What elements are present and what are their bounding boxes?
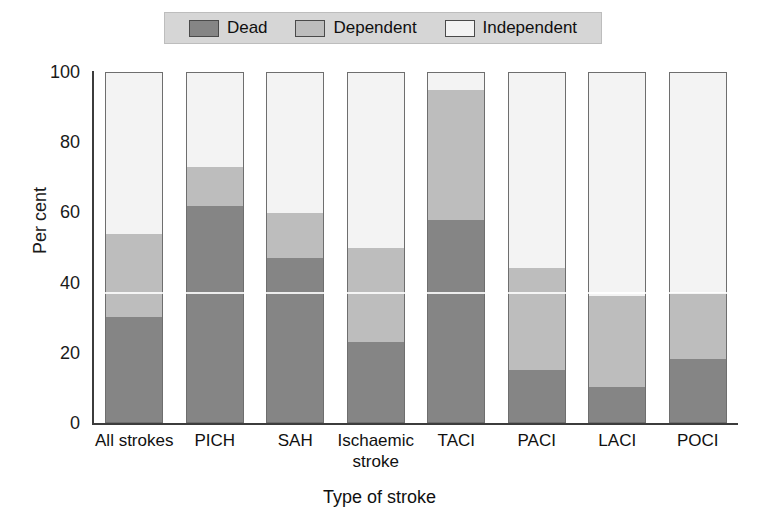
bar-laci [588, 72, 646, 423]
y-axis-tick-labels: 020406080100 [34, 0, 80, 518]
bar-segment-dead [670, 359, 726, 422]
legend-label-dead: Dead [227, 18, 268, 38]
bar-segment-dead [348, 342, 404, 422]
y-tick-label-40: 40 [34, 272, 80, 293]
legend-entry-independent: Independent [445, 18, 578, 38]
bar-group [94, 72, 738, 423]
bar-ischaemic-stroke [347, 72, 405, 423]
bar-poci [669, 72, 727, 423]
legend-swatch-independent [445, 20, 475, 37]
bar-segment-dependent [348, 248, 404, 342]
bar-segment-dead [187, 206, 243, 422]
legend-swatch-dependent [295, 20, 325, 37]
bar-paci [508, 72, 566, 423]
bar-segment-independent [348, 73, 404, 248]
bar-all-strokes [105, 72, 163, 423]
bar-segment-independent [187, 73, 243, 167]
bar-segment-independent [106, 73, 162, 234]
bar-segment-dependent [187, 167, 243, 205]
bar-pich [186, 72, 244, 423]
bar-sah [266, 72, 324, 423]
bar-segment-independent [589, 73, 645, 296]
bar-segment-dependent [106, 234, 162, 318]
y-tick-label-0: 0 [34, 413, 80, 434]
chart-figure: Dead Dependent Independent Per cent 0204… [0, 0, 759, 518]
bar-segment-independent [428, 73, 484, 90]
x-axis-label: Type of stroke [0, 487, 759, 508]
y-tick-label-20: 20 [34, 342, 80, 363]
bar-segment-dependent [589, 296, 645, 387]
legend-label-dependent: Dependent [333, 18, 416, 38]
bar-segment-dead [509, 370, 565, 422]
bar-segment-dead [267, 258, 323, 422]
legend-entry-dead: Dead [189, 18, 268, 38]
x-tick-label-poci: POCI [643, 430, 753, 451]
chart-legend: Dead Dependent Independent [164, 12, 602, 44]
bar-segment-independent [509, 73, 565, 268]
bar-segment-dependent [267, 213, 323, 258]
y-tick-label-60: 60 [34, 202, 80, 223]
bar-segment-dependent [428, 90, 484, 219]
bar-segment-dead [106, 317, 162, 422]
bar-segment-independent [267, 73, 323, 213]
legend-entry-dependent: Dependent [295, 18, 416, 38]
bar-segment-dead [428, 220, 484, 422]
y-tick-label-100: 100 [34, 62, 80, 83]
bar-segment-dead [589, 387, 645, 422]
bar-taci [427, 72, 485, 423]
bar-segment-independent [670, 73, 726, 293]
legend-swatch-dead [189, 20, 219, 37]
y-tick-label-80: 80 [34, 132, 80, 153]
legend-label-independent: Independent [483, 18, 578, 38]
x-axis-line [92, 423, 738, 425]
bar-segment-dependent [670, 293, 726, 359]
bar-segment-dependent [509, 268, 565, 369]
